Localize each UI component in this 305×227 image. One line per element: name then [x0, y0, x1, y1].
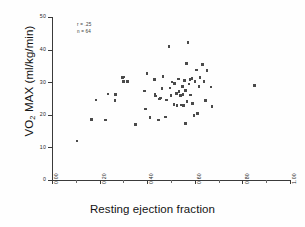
data-point [173, 82, 176, 85]
x-tick-label: 1.00 [292, 173, 297, 184]
y-axis-title-rest: MAX (ml/kg/min) [23, 26, 35, 116]
data-point [76, 140, 79, 143]
y-tick-label: 20 [40, 112, 46, 117]
data-point [144, 108, 147, 111]
y-axis-title: VO2 MAX (ml/kg/min) [23, 26, 35, 137]
data-point [95, 99, 98, 102]
data-point [168, 45, 171, 48]
data-point [253, 84, 256, 87]
data-point [210, 86, 213, 89]
data-point [193, 114, 196, 117]
data-point [104, 119, 107, 122]
data-point [154, 95, 157, 98]
y-tick-label: 30 [40, 80, 46, 85]
annotation-correlation: r = .25 [77, 21, 92, 28]
data-point [146, 72, 149, 75]
data-point [189, 94, 192, 97]
data-point [204, 99, 207, 102]
y-tick-label: 10 [40, 145, 46, 150]
data-point [149, 116, 152, 119]
x-axis-title: Resting ejection fraction [0, 203, 305, 215]
data-point [164, 116, 167, 119]
data-point [211, 105, 214, 108]
data-point [184, 122, 187, 125]
x-tick-mark-minor [266, 180, 267, 183]
data-point [186, 100, 189, 103]
data-point [203, 80, 206, 83]
annotation-sample-size: n = 64 [77, 28, 92, 35]
chart-annotations: r = .25 n = 64 [77, 21, 92, 35]
data-point [162, 75, 165, 78]
data-point [134, 123, 137, 126]
data-point [176, 104, 179, 107]
y-tick-label: 0 [43, 177, 46, 182]
y-axis-title-subscript: 2 [28, 115, 37, 119]
data-point [153, 78, 156, 81]
data-point [122, 80, 125, 83]
data-point [177, 78, 180, 81]
data-point [90, 118, 93, 121]
x-tick-mark-minor [171, 180, 172, 183]
data-point [188, 83, 191, 86]
data-point [178, 90, 181, 93]
data-point [126, 80, 129, 83]
data-point [198, 85, 201, 88]
y-axis-title-main: VO [23, 120, 35, 137]
data-point [191, 102, 194, 105]
data-point [107, 93, 110, 96]
x-tick-mark-minor [219, 180, 220, 183]
data-point [183, 79, 186, 82]
data-point [143, 90, 146, 93]
data-point [196, 112, 199, 115]
data-point [157, 119, 160, 122]
plot-area [52, 17, 290, 180]
data-point [206, 69, 209, 72]
scatter-plot-figure: 50403020100 0.000.200.400.600.801.00 r =… [0, 0, 305, 227]
data-point [195, 69, 198, 72]
data-point [169, 87, 172, 90]
data-point [185, 62, 188, 65]
data-point [114, 93, 117, 96]
y-axis-title-wrap: VO2 MAX (ml/kg/min) [19, 0, 37, 181]
y-tick-label: 50 [40, 14, 46, 19]
x-tick-mark-minor [123, 180, 124, 183]
data-point [187, 41, 190, 44]
data-point [181, 85, 184, 88]
data-point [201, 63, 204, 66]
data-point [165, 99, 168, 102]
data-point [194, 80, 197, 83]
data-point [123, 76, 126, 79]
data-point [159, 97, 162, 100]
data-point [184, 89, 187, 92]
data-point [161, 87, 164, 90]
data-point [170, 94, 173, 97]
y-tick-label: 40 [40, 47, 46, 52]
data-point [182, 93, 185, 96]
data-point [199, 76, 202, 79]
data-point [182, 104, 185, 107]
x-tick-mark-minor [76, 180, 77, 183]
data-point [114, 99, 117, 102]
